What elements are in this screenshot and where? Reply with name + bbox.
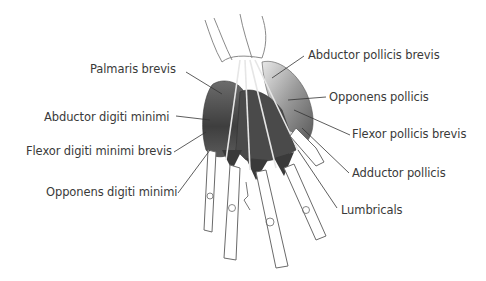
joint-marks <box>207 193 310 226</box>
label-opponens-digiti-minimi: Opponens digiti minimi <box>46 185 177 199</box>
forearm-bones <box>205 14 266 62</box>
label-opponens-pollicis: Opponens pollicis <box>329 90 429 104</box>
label-abductor-pollicis-brevis: Abductor pollicis brevis <box>308 48 440 62</box>
label-lumbricals: Lumbricals <box>341 203 402 217</box>
label-abductor-digiti-minimi: Abductor digiti minimi <box>44 110 169 124</box>
signature-mark <box>244 182 250 210</box>
label-palmaris-brevis: Palmaris brevis <box>90 62 176 76</box>
label-flexor-digiti-minimi-brevis: Flexor digiti minimi brevis <box>26 144 172 158</box>
label-flexor-pollicis-brevis: Flexor pollicis brevis <box>352 127 466 141</box>
label-adductor-pollicis: Adductor pollicis <box>352 166 446 180</box>
hand-muscles-diagram: Palmaris brevis Abductor digiti minimi F… <box>0 0 486 281</box>
